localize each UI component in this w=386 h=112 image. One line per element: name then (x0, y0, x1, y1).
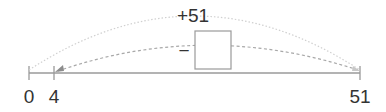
arrowhead-icon (55, 65, 64, 72)
number-line-diagram: +51 − 0 4 51 (0, 0, 386, 112)
arrowhead-end-icon (352, 66, 360, 71)
tick-label-51: 51 (349, 86, 370, 107)
tick-label-0: 0 (24, 86, 35, 107)
answer-box[interactable] (195, 31, 231, 69)
operator-label: − (178, 40, 189, 61)
top-arc-label: +51 (177, 5, 209, 26)
tick-label-4: 4 (49, 86, 60, 107)
